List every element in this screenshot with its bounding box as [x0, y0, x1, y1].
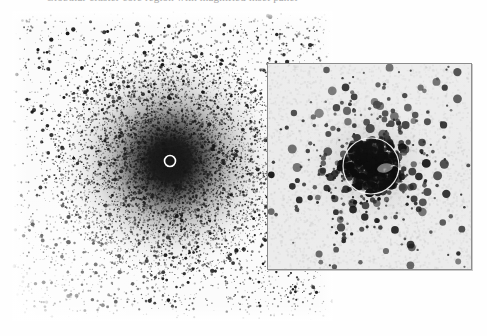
inset-star-field-canvas: [268, 64, 471, 269]
figure-caption-strip: Globular cluster core region with magnif…: [0, 0, 487, 6]
figure-caption-text: Globular cluster core region with magnif…: [46, 0, 446, 3]
inset-core-zoom-panel: [267, 63, 472, 270]
figure-root: Globular cluster core region with magnif…: [0, 0, 487, 336]
